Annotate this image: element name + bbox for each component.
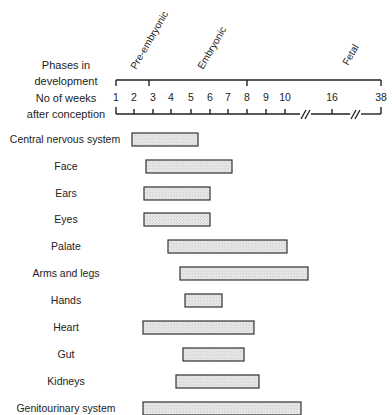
week-tick-label: 38 — [375, 91, 387, 103]
phase-labels: Pre-embryonicEmbryonicFetal — [128, 9, 361, 71]
category-label: Eyes — [54, 213, 77, 225]
bar-row: Arms and legs — [32, 267, 308, 280]
bar-row: Ears — [55, 187, 210, 200]
period-bar — [143, 402, 301, 415]
week-axis-label-line1: No of weeks — [36, 92, 97, 104]
week-tick-label: 16 — [326, 91, 338, 103]
category-label: Palate — [51, 240, 81, 252]
bar-row: Face — [54, 160, 232, 173]
bar-row: Palate — [51, 240, 287, 253]
week-axis: 123456789101638 — [113, 91, 387, 119]
teratogen-sensitivity-chart: Pre-embryonicEmbryonicFetal Phases in de… — [0, 0, 392, 415]
period-bar — [132, 133, 198, 146]
bar-row: Heart — [53, 321, 254, 334]
category-label: Gut — [58, 348, 75, 360]
bar-row: Gut — [58, 348, 244, 361]
period-bar — [180, 267, 308, 280]
week-tick-label: 4 — [168, 91, 174, 103]
phase-label: Pre-embryonic — [128, 9, 170, 71]
bar-row: Central nervous system — [10, 133, 198, 146]
bars: Central nervous systemFaceEarsEyesPalate… — [10, 133, 308, 415]
bar-row: Eyes — [54, 213, 210, 226]
phase-axis-label-line2: development — [35, 75, 98, 87]
category-label: Kidneys — [47, 375, 84, 387]
category-label: Face — [54, 160, 78, 172]
category-label: Heart — [53, 321, 79, 333]
category-label: Genitourinary system — [16, 402, 115, 414]
period-bar — [168, 240, 287, 253]
period-bar — [185, 294, 222, 307]
category-label: Hands — [51, 294, 81, 306]
category-label: Arms and legs — [32, 267, 99, 279]
week-tick-label: 8 — [244, 91, 250, 103]
phase-label: Embryonic — [195, 25, 228, 71]
bar-row: Kidneys — [47, 375, 259, 388]
period-bar — [144, 187, 210, 200]
phase-axis — [116, 80, 381, 86]
bar-row: Hands — [51, 294, 222, 307]
period-bar — [146, 160, 232, 173]
week-tick-label: 1 — [113, 91, 119, 103]
phase-label: Fetal — [340, 42, 361, 67]
week-tick-label: 6 — [207, 91, 213, 103]
category-label: Ears — [55, 187, 77, 199]
week-axis-label-line2: after conception — [27, 108, 105, 120]
bar-row: Genitourinary system — [16, 402, 301, 415]
week-tick-label: 10 — [279, 91, 291, 103]
week-tick-label: 2 — [131, 91, 137, 103]
axis-labels: Phases in development No of weeks after … — [27, 59, 105, 120]
week-tick-label: 5 — [188, 91, 194, 103]
category-label: Central nervous system — [10, 133, 121, 145]
week-tick-label: 9 — [263, 91, 269, 103]
week-tick-label: 7 — [225, 91, 231, 103]
period-bar — [143, 321, 254, 334]
period-bar — [183, 348, 244, 361]
period-bar — [144, 213, 210, 226]
period-bar — [176, 375, 259, 388]
phase-axis-label-line1: Phases in — [42, 59, 90, 71]
week-tick-label: 3 — [150, 91, 156, 103]
